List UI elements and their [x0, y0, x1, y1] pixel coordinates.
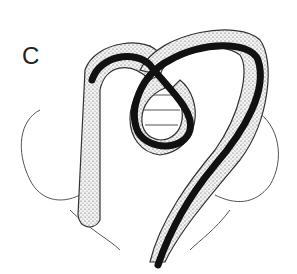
- illustration: C: [0, 0, 297, 274]
- anatomy-drawing: [0, 0, 297, 274]
